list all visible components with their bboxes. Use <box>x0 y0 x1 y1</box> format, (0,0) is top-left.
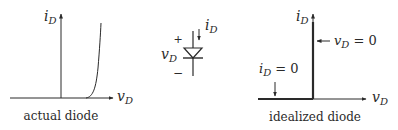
diode-iv-diagram: iD vD actual diode iD + vD − iD vD vD = … <box>0 0 398 130</box>
vd-zero-annotation: vD = 0 <box>334 33 377 50</box>
diode-current-label: iD <box>205 17 218 35</box>
id-zero-annotation: iD = 0 <box>259 61 299 78</box>
actual-diode-caption: actual diode <box>24 109 99 123</box>
actual-diode-graph: iD vD actual diode <box>10 8 133 123</box>
idealized-diode-graph: iD vD vD = 0 iD = 0 idealized diode <box>258 8 388 124</box>
ideal-x-axis-label: vD <box>372 89 388 107</box>
diode-voltage-label: vD <box>161 46 177 64</box>
minus-sign: − <box>173 66 183 80</box>
ideal-y-axis-label: iD <box>296 8 309 26</box>
diode-symbol: iD + vD − <box>161 17 218 80</box>
actual-iv-curve <box>86 23 101 98</box>
diode-triangle <box>184 48 202 58</box>
plus-sign: + <box>173 33 182 46</box>
actual-y-axis-label: iD <box>44 8 57 26</box>
actual-x-axis-label: vD <box>117 88 133 106</box>
idealized-diode-caption: idealized diode <box>269 110 361 124</box>
